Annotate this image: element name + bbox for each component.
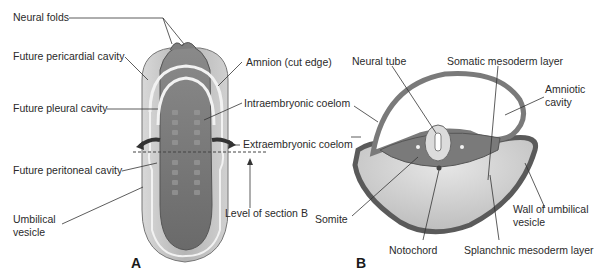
label-intraembryonic-coelom: Intraembryonic coelom: [244, 97, 350, 110]
label-neural-folds: Neural folds: [13, 11, 69, 24]
label-wall-of-umbilical-vesicle-line1: Wall of umbilical: [513, 203, 588, 216]
label-extraembryonic-coelom: Extraembryonic coelom: [243, 138, 353, 151]
label-future-pericardial-cavity: Future pericardial cavity: [13, 50, 124, 63]
label-wall-of-umbilical-vesicle-line2: vesicle: [513, 216, 545, 229]
panel-a-embryo: [133, 42, 267, 262]
label-somite: Somite: [315, 213, 348, 226]
label-umbilical-vesicle-line1: Umbilical: [13, 213, 56, 226]
label-amniotic-cavity-line1: Amniotic: [545, 83, 585, 96]
panel-letter-a: A: [131, 255, 141, 271]
panel-letter-b: B: [356, 255, 366, 271]
label-somatic-mesoderm-layer: Somatic mesoderm layer: [447, 55, 563, 68]
panel-b-section: [355, 74, 536, 232]
label-umbilical-vesicle-line2: vesicle: [13, 226, 45, 239]
label-splanchnic-mesoderm-layer: Splanchnic mesoderm layer: [464, 244, 594, 257]
label-neural-tube: Neural tube: [352, 55, 406, 68]
label-amniotic-cavity-line2: cavity: [545, 96, 572, 109]
label-amnion-cut-edge: Amnion (cut edge): [246, 56, 332, 69]
label-level-of-section-b: Level of section B: [225, 207, 308, 220]
label-future-pleural-cavity: Future pleural cavity: [13, 102, 108, 115]
label-future-peritoneal-cavity: Future peritoneal cavity: [13, 164, 122, 177]
label-notochord: Notochord: [389, 244, 437, 257]
